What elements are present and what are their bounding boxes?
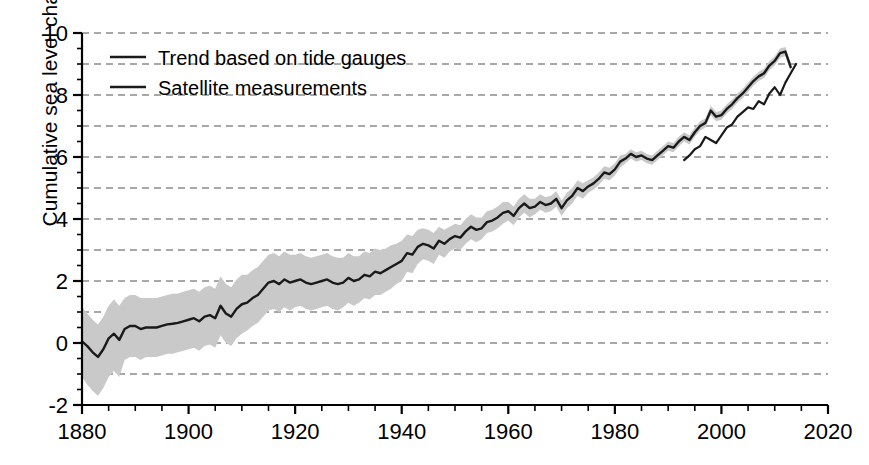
y-tick-label: 6: [56, 145, 68, 170]
y-tick-label: 4: [56, 207, 68, 232]
x-tick-label: 1980: [590, 419, 639, 444]
x-tick-label: 2020: [804, 419, 853, 444]
y-tick-label: 2: [56, 269, 68, 294]
y-tick-label: 10: [44, 21, 68, 46]
x-tick-label: 2000: [697, 419, 746, 444]
x-tick-label: 1960: [484, 419, 533, 444]
y-tick-label: 8: [56, 83, 68, 108]
x-tick-label: 1940: [377, 419, 426, 444]
sea-level-chart: Cumulative sea level change (inches) -20…: [0, 0, 869, 465]
legend-label-0: Trend based on tide gauges: [158, 47, 406, 69]
x-tick-label: 1900: [164, 419, 213, 444]
legend: Trend based on tide gaugesSatellite meas…: [110, 47, 406, 99]
legend-label-1: Satellite measurements: [158, 77, 367, 99]
x-tick-label: 1880: [58, 419, 107, 444]
series-line-1: [684, 64, 796, 160]
plot-area: -202468101880190019201940196019802000202…: [0, 0, 869, 465]
y-tick-label: 0: [56, 331, 68, 356]
x-tick-label: 1920: [271, 419, 320, 444]
y-tick-label: -2: [48, 393, 68, 418]
